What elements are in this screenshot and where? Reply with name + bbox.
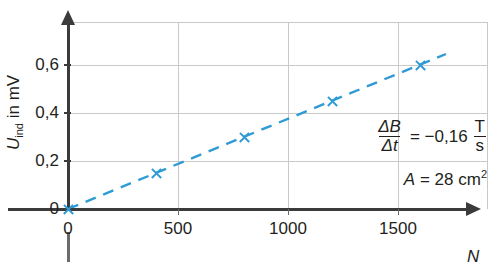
unit-numerator: T: [473, 118, 487, 136]
y-tick-label-0.2: 0,2: [14, 151, 59, 171]
y-tick-label-0.6: 0,6: [14, 55, 59, 75]
unit-denominator: s: [474, 136, 487, 155]
annotation-area: A = 28 cm2: [330, 169, 487, 188]
y-axis-label: Uind in mV: [4, 75, 25, 150]
x-axis-arrow: [466, 202, 481, 216]
rate-equals-value: = −0,16: [410, 128, 468, 145]
y-axis-label-subscript: ind: [13, 123, 25, 138]
gridline-y-0.4: [68, 113, 487, 114]
x-tick-1000: [288, 209, 289, 215]
annotation-block: ΔB Δt = −0,16 T s A = 28 cm2: [330, 118, 487, 187]
y-tick-0.4: [64, 112, 71, 114]
data-point: [414, 59, 427, 72]
gridline-right-border: [487, 22, 488, 209]
fraction-numerator: ΔB: [376, 118, 403, 136]
x-tick-500: [178, 209, 179, 215]
data-point: [150, 167, 163, 180]
unit-fraction-tesla-per-second: T s: [473, 118, 487, 155]
x-axis-label: N: [467, 247, 479, 267]
area-symbol: A: [404, 169, 415, 188]
x-tick-1500: [398, 209, 399, 215]
y-axis: [67, 22, 70, 210]
annotation-rate: ΔB Δt = −0,16 T s: [330, 118, 487, 155]
fraction-denominator: Δt: [379, 136, 399, 155]
y-tick-0.6: [64, 64, 71, 66]
area-exponent: 2: [481, 168, 487, 180]
gridline-top: [68, 22, 487, 23]
chart-figure: 0,6 0,4 0,2 0 0 500 1000 1500 Uind in mV…: [0, 0, 495, 272]
y-tick-label-0: 0: [14, 199, 59, 219]
x-tick-label-1500: 1500: [366, 219, 430, 239]
y-axis-label-symbol: U: [4, 138, 23, 150]
y-tick-0.2: [64, 160, 71, 162]
x-tick-label-500: 500: [148, 219, 208, 239]
x-tick-label-1000: 1000: [256, 219, 320, 239]
data-point: [238, 131, 251, 144]
data-point: [62, 203, 75, 216]
gridline-x-1000: [288, 22, 289, 209]
delta-b-delta-t-fraction: ΔB Δt: [376, 118, 403, 155]
area-value: = 28 cm: [420, 169, 481, 188]
x-tick-label-0: 0: [48, 219, 88, 239]
y-axis-arrow: [61, 10, 75, 25]
gridline-x-500: [178, 22, 179, 209]
data-point: [326, 95, 339, 108]
y-axis-label-unit: in mV: [4, 75, 23, 123]
